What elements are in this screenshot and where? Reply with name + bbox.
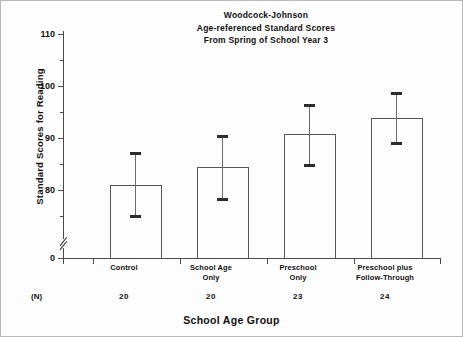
x-category-line: Follow-Through <box>335 273 435 283</box>
y-axis-line <box>63 31 64 259</box>
x-category-line: Control <box>74 263 174 273</box>
error-bar-line-school-age-only <box>222 135 223 199</box>
y-minor-tick-105 <box>60 60 63 61</box>
y-tick-mark <box>58 34 63 35</box>
x-category-label-preschool-only: Preschool Only <box>248 263 348 283</box>
error-bar-cap-upper-school-age-only <box>217 135 228 138</box>
n-value-control: 20 <box>74 292 174 301</box>
x-category-label-control: Control <box>74 263 174 273</box>
chart-figure: Woodcock-Johnson Age-referenced Standard… <box>0 0 463 337</box>
n-value-school-age-only: 20 <box>161 292 261 301</box>
y-axis-label: Standard Scores for Reading <box>34 37 45 237</box>
error-bar-cap-upper-preschool-plus-follow-through <box>391 92 402 95</box>
x-axis-label: School Age Group <box>1 314 462 326</box>
y-minor-tick-85 <box>60 164 63 165</box>
error-bar-cap-upper-preschool-only <box>304 104 315 107</box>
y-minor-tick-75 <box>60 216 63 217</box>
x-tick-0 <box>63 258 64 264</box>
error-bar-cap-lower-preschool-plus-follow-through <box>391 142 402 145</box>
y-tick-label: 80 <box>45 185 55 195</box>
error-bar-cap-lower-preschool-only <box>304 164 315 167</box>
x-category-line: School Age <box>161 263 261 273</box>
plot-area: 110 100 90 80 0 <box>63 31 441 259</box>
y-tick-mark <box>58 138 63 139</box>
x-category-label-preschool-plus-follow-through: Preschool plus Follow-Through <box>335 263 435 283</box>
x-category-line: Preschool <box>248 263 348 273</box>
x-tick-5 <box>440 258 441 264</box>
error-bar-cap-lower-school-age-only <box>217 198 228 201</box>
error-bar-line-preschool-plus-follow-through <box>396 92 397 143</box>
x-category-line: Preschool plus <box>335 263 435 273</box>
y-tick-label: 0 <box>50 253 55 263</box>
y-tick-mark <box>58 86 63 87</box>
axis-break-icon <box>58 237 70 250</box>
x-category-label-school-age-only: School Age Only <box>161 263 261 283</box>
n-value-preschool-only: 23 <box>248 292 348 301</box>
n-row-label: (N) <box>31 292 42 301</box>
chart-title-line-1: Woodcock-Johnson <box>141 9 391 22</box>
y-tick-mark <box>58 190 63 191</box>
error-bar-line-preschool-only <box>309 104 310 165</box>
error-bar-cap-lower-control <box>130 215 141 218</box>
x-category-line: Only <box>161 273 261 283</box>
error-bar-cap-upper-control <box>130 152 141 155</box>
x-category-line: Only <box>248 273 348 283</box>
y-tick-label: 100 <box>40 81 55 91</box>
y-minor-tick-95 <box>60 112 63 113</box>
error-bar-line-control <box>135 152 136 216</box>
y-tick-label: 90 <box>45 133 55 143</box>
y-tick-label: 110 <box>40 29 55 39</box>
n-value-preschool-plus-follow-through: 24 <box>335 292 435 301</box>
